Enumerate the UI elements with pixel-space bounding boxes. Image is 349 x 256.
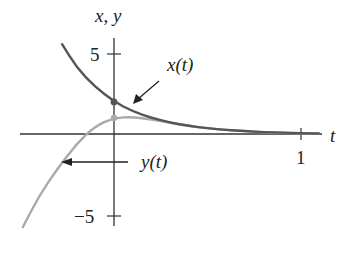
- x-initial-point: [111, 99, 118, 106]
- chart: x, y t 5 −5 1 x(t) y(t): [0, 0, 349, 256]
- tick-label-1: 1: [296, 147, 306, 168]
- annotation-y-t: y(t): [139, 151, 167, 173]
- arrow-y-annotation: [61, 158, 128, 166]
- axis-label-xy: x, y: [94, 5, 122, 26]
- tick-label-5: 5: [90, 44, 100, 65]
- annotation-x-t: x(t): [166, 54, 193, 76]
- arrow-x-annotation: [133, 81, 159, 104]
- y-initial-point: [111, 115, 117, 121]
- axis-label-t: t: [330, 125, 336, 146]
- tick-label-neg5: −5: [74, 206, 94, 227]
